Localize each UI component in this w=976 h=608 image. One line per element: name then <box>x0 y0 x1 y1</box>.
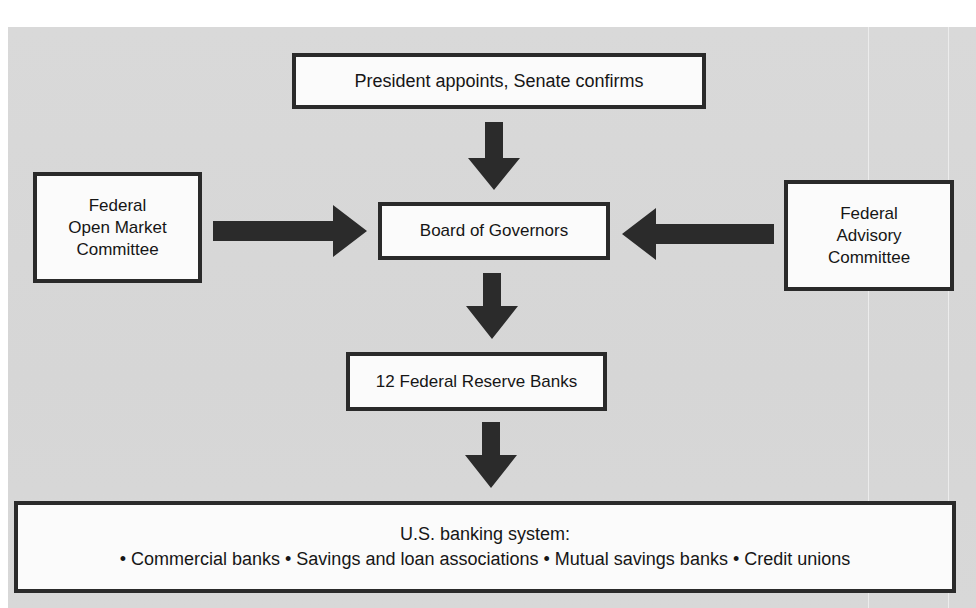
fomc-line-2: Open Market <box>68 217 166 239</box>
arrow-down-icon <box>468 122 520 190</box>
banking-items: • Commercial banks • Savings and loan as… <box>120 547 851 572</box>
arrow-down-icon <box>466 273 518 339</box>
appointment-label: President appoints, Senate confirms <box>354 71 643 92</box>
fac-line-2: Advisory <box>836 225 901 247</box>
fomc-line-1: Federal <box>89 195 147 217</box>
fac-box: Federal Advisory Committee <box>784 180 954 291</box>
banking-title: U.S. banking system: <box>400 522 570 547</box>
arrow-left-icon <box>622 208 774 260</box>
arrow-right-icon <box>213 205 367 257</box>
board-label: Board of Governors <box>420 221 568 241</box>
arrow-down-icon <box>465 422 517 488</box>
fac-line-1: Federal <box>840 203 898 225</box>
reserve-banks-label: 12 Federal Reserve Banks <box>376 372 577 392</box>
reserve-banks-box: 12 Federal Reserve Banks <box>346 352 607 411</box>
board-of-governors-box: Board of Governors <box>378 202 610 260</box>
fac-line-3: Committee <box>828 247 910 269</box>
banking-system-box: U.S. banking system: • Commercial banks … <box>14 501 956 593</box>
fomc-line-3: Committee <box>76 239 158 261</box>
appointment-box: President appoints, Senate confirms <box>292 53 706 109</box>
fomc-box: Federal Open Market Committee <box>33 172 202 283</box>
